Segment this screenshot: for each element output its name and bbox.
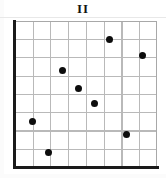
scatter-plot-figure: II: [0, 0, 166, 178]
y-axis-spine: [13, 20, 16, 169]
data-point: [91, 100, 98, 107]
chart-title: II: [0, 1, 166, 16]
data-point: [123, 131, 130, 138]
title-divider: [0, 17, 166, 18]
x-axis-spine: [13, 166, 159, 169]
plot-area: [15, 21, 157, 167]
grid-lines: [15, 21, 157, 167]
page-edge-left: [0, 0, 4, 178]
data-point: [106, 36, 113, 43]
page-edge-bottom: [0, 174, 166, 178]
